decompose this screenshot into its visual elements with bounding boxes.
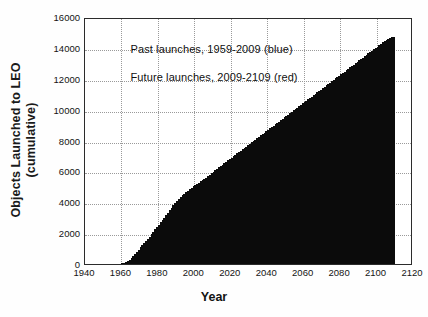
gridline-vertical bbox=[121, 19, 122, 264]
x-axis-tick-label: 2080 bbox=[319, 267, 359, 278]
y-axis-tick bbox=[84, 19, 85, 20]
bar bbox=[393, 37, 395, 264]
y-axis-tick bbox=[84, 81, 85, 82]
chart-figure: Objects Launched to LEO (cumulative) 020… bbox=[0, 0, 428, 317]
y-axis-tick-label: 14000 bbox=[36, 43, 80, 54]
x-axis-tick-label: 2040 bbox=[246, 267, 286, 278]
future-launches-note: Future launches, 2009-2109 (red) bbox=[131, 71, 298, 83]
y-axis-tick-label: 8000 bbox=[36, 136, 80, 147]
x-axis-tick-label: 1960 bbox=[100, 267, 140, 278]
y-axis-title-line1: Objects Launched to LEO bbox=[9, 62, 24, 217]
y-axis-tick bbox=[84, 50, 85, 51]
y-axis-tick bbox=[84, 143, 85, 144]
x-axis-tick bbox=[377, 264, 378, 265]
x-axis-title: Year bbox=[0, 290, 428, 304]
x-axis-tick-label: 1940 bbox=[64, 267, 104, 278]
past-launches-note: Past launches, 1959-2009 (blue) bbox=[131, 43, 293, 55]
x-axis-tick bbox=[340, 264, 341, 265]
y-axis-tick-label: 16000 bbox=[36, 12, 80, 23]
y-axis-tick-label: 2000 bbox=[36, 228, 80, 239]
x-axis-tick bbox=[121, 264, 122, 265]
x-axis-tick bbox=[231, 264, 232, 265]
x-axis-tick bbox=[267, 264, 268, 265]
y-axis-tick bbox=[84, 235, 85, 236]
x-axis-tick-label: 2000 bbox=[173, 267, 213, 278]
y-axis-tick-label: 10000 bbox=[36, 105, 80, 116]
y-axis-tick-label: 4000 bbox=[36, 197, 80, 208]
y-axis-tick-label: 6000 bbox=[36, 166, 80, 177]
x-axis-tick bbox=[304, 264, 305, 265]
x-axis-tick-label: 2060 bbox=[283, 267, 323, 278]
x-axis-tick-label: 2020 bbox=[210, 267, 250, 278]
y-axis-tick-label: 12000 bbox=[36, 74, 80, 85]
x-axis-tick bbox=[85, 264, 86, 265]
x-axis-tick-label: 1980 bbox=[137, 267, 177, 278]
x-axis-tick bbox=[194, 264, 195, 265]
y-axis-tick bbox=[84, 204, 85, 205]
x-axis-tick-label: 2100 bbox=[356, 267, 396, 278]
plot-area: Past launches, 1959-2009 (blue)Future la… bbox=[84, 18, 412, 265]
x-axis-tick-label: 2120 bbox=[392, 267, 428, 278]
y-axis-tick bbox=[84, 173, 85, 174]
x-axis-tick bbox=[158, 264, 159, 265]
y-axis-tick bbox=[84, 112, 85, 113]
